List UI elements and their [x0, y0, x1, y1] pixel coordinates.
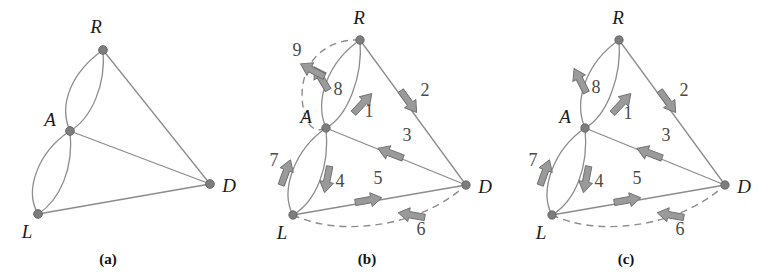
node-label-L: L — [276, 222, 288, 243]
node-label-R: R — [352, 7, 365, 28]
edge-A-L-right — [552, 128, 586, 215]
node-label-L: L — [21, 221, 33, 242]
edge-L-D-outer-dashed — [552, 185, 725, 227]
node-label-R: R — [611, 7, 624, 28]
panel-a: R A L D (a) — [0, 0, 259, 279]
edge-number-7: 7 — [529, 150, 538, 170]
edge-number-6: 6 — [417, 219, 426, 239]
node-label-D: D — [477, 176, 492, 197]
edge-number-4: 4 — [336, 171, 345, 191]
node-R — [615, 36, 623, 44]
node-label-R: R — [89, 16, 102, 37]
node-D — [721, 181, 729, 189]
edge-number-2: 2 — [421, 80, 430, 100]
edge-number-1: 1 — [624, 103, 633, 123]
edge-number-3: 3 — [403, 125, 412, 145]
node-R — [356, 36, 364, 44]
edge-R-A-right — [70, 50, 103, 131]
edge-number-6: 6 — [676, 219, 685, 239]
node-R — [99, 46, 108, 55]
node-A — [322, 124, 330, 132]
edge-number-4: 4 — [595, 171, 604, 191]
edge-number-7: 7 — [270, 150, 279, 170]
arrow-8 — [568, 65, 593, 95]
node-D — [462, 181, 470, 189]
node-label-A: A — [557, 106, 571, 127]
node-label-D: D — [736, 176, 751, 197]
panel-c: R A L D 1 2 3 4 5 6 7 8 (c) — [518, 0, 777, 279]
panel-b: R A L D 1 2 3 4 5 6 7 8 9 (b) — [259, 0, 518, 279]
node-L — [34, 210, 43, 219]
edge-number-2: 2 — [680, 80, 689, 100]
node-L — [289, 211, 297, 219]
edge-L-D — [38, 184, 210, 214]
edge-L-D-outer-dashed — [293, 185, 466, 227]
node-A — [581, 124, 589, 132]
panel-caption-b: (b) — [358, 251, 376, 268]
edge-number-5: 5 — [374, 168, 383, 188]
edge-number-8: 8 — [334, 79, 343, 99]
node-label-A: A — [298, 106, 312, 127]
panel-caption-a: (a) — [99, 251, 117, 268]
node-label-A: A — [42, 109, 56, 130]
arrow-5 — [613, 191, 642, 209]
arrow-3 — [375, 142, 405, 165]
node-A — [66, 127, 75, 136]
arrow-2 — [395, 87, 422, 117]
node-label-L: L — [535, 222, 547, 243]
edge-number-1: 1 — [365, 101, 374, 121]
panel-caption-c: (c) — [618, 251, 635, 268]
edge-number-8: 8 — [592, 77, 601, 97]
arrow-3 — [634, 142, 664, 165]
edge-A-L-right — [293, 128, 327, 215]
node-L — [548, 211, 556, 219]
edge-number-3: 3 — [662, 125, 671, 145]
arrow-5 — [354, 191, 383, 209]
figure-container: R A L D (a) — [0, 0, 777, 279]
node-label-D: D — [221, 175, 236, 196]
edge-number-9: 9 — [293, 40, 302, 60]
node-D — [206, 180, 215, 189]
edge-number-5: 5 — [633, 168, 642, 188]
arrow-2 — [654, 87, 681, 117]
